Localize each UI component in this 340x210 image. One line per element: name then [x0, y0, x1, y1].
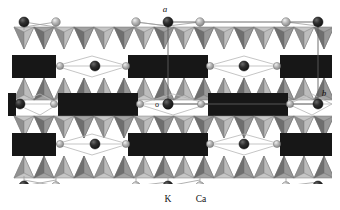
atom-ca: [273, 62, 280, 69]
atom-ca: [122, 62, 129, 69]
atom-ca: [136, 100, 143, 107]
atom-ca: [122, 140, 129, 147]
legend-label-k: K: [165, 194, 172, 204]
axis-label-a: a: [163, 4, 168, 14]
atom-ca: [56, 62, 63, 69]
octahedra-block: [280, 55, 340, 78]
legend-label-ca: Ca: [196, 194, 207, 204]
atom-k: [239, 139, 249, 149]
atom-ca: [50, 100, 57, 107]
octahedra-block: [208, 93, 288, 116]
atom-k: [90, 61, 100, 71]
crystal-structure-figure: a b o K Ca: [0, 0, 340, 210]
atom-k: [19, 17, 29, 27]
axis-label-origin: o: [155, 100, 159, 109]
octahedra-block: [12, 133, 56, 156]
atom-k: [313, 17, 323, 27]
octahedra-block: [128, 133, 208, 156]
atom-k: [15, 99, 25, 109]
atom-ca: [52, 18, 61, 27]
atom-ca: [286, 100, 293, 107]
atom-ca: [282, 18, 291, 27]
atom-ca: [273, 140, 280, 147]
atom-ca: [196, 18, 205, 27]
atom-k: [239, 61, 249, 71]
atom-ca: [206, 62, 213, 69]
atom-ca: [206, 140, 213, 147]
atom-k-origin: [163, 99, 173, 109]
octahedra-block: [58, 93, 138, 116]
octahedra-block: [280, 133, 340, 156]
atom-ca: [197, 100, 204, 107]
atom-ca: [56, 140, 63, 147]
structure-canvas: a b o K Ca: [0, 0, 340, 210]
atom-k: [313, 99, 323, 109]
octahedra-block: [12, 55, 56, 78]
atom-k: [163, 17, 173, 27]
atom-ca: [132, 18, 141, 27]
atom-k: [90, 139, 100, 149]
axis-label-b: b: [322, 88, 327, 98]
